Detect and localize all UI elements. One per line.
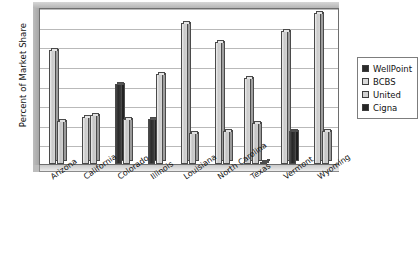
bar-top: [324, 129, 331, 132]
bar-wellpoint-illinois[interactable]: [148, 119, 155, 164]
bar-group: [172, 9, 205, 164]
bar-bcbs-louisiana[interactable]: [181, 23, 188, 164]
bar-side: [163, 73, 166, 161]
bar-bcbs-wyoming[interactable]: [314, 13, 321, 164]
bar-top: [117, 82, 124, 85]
bar-face: [156, 74, 163, 164]
plot-frame: [39, 8, 339, 165]
bar-face: [82, 117, 89, 164]
bar-group: [239, 9, 272, 164]
bar-face: [123, 119, 130, 164]
bar-side: [230, 130, 233, 161]
bar-top: [125, 117, 132, 120]
bar-bcbs-illinois[interactable]: [156, 74, 163, 164]
bar-chart-figure: Percent of Market Share 0102030405060708…: [0, 0, 419, 253]
bar-top: [254, 121, 261, 124]
legend-label: United: [373, 90, 401, 100]
bar-side: [97, 114, 100, 161]
bar-face: [115, 84, 122, 164]
legend-label: BCBS: [373, 77, 396, 87]
bar-group: [206, 9, 239, 164]
bar-group: [106, 9, 139, 164]
bar-group: [40, 9, 73, 164]
bar-face: [189, 133, 196, 164]
bar-united-wyoming[interactable]: [322, 131, 329, 164]
bar-top: [217, 40, 224, 43]
bar-side: [196, 132, 199, 161]
x-axis-labels: ArizonaCaliforniaColoradoIllinoisLouisia…: [39, 172, 339, 232]
bar-group: [305, 9, 338, 164]
bar-face: [281, 31, 288, 164]
bar-united-louisiana[interactable]: [189, 133, 196, 164]
bar-top: [183, 21, 190, 24]
bar-bcbs-california[interactable]: [82, 117, 89, 164]
bar-top: [191, 131, 198, 134]
bar-united-colorado[interactable]: [123, 119, 130, 164]
bar-top: [283, 29, 290, 32]
bar-groups: [40, 9, 338, 164]
bar-face: [148, 119, 155, 164]
legend-swatch-icon: [362, 65, 369, 72]
bar-bcbs-north-carolina[interactable]: [215, 42, 222, 164]
bar-face: [215, 42, 222, 164]
bar-face: [289, 131, 296, 164]
bar-face: [181, 23, 188, 164]
bar-side: [130, 118, 133, 161]
bar-face: [322, 131, 329, 164]
bar-united-north-carolina[interactable]: [223, 131, 230, 164]
bar-top: [59, 119, 66, 122]
legend-swatch-icon: [362, 91, 369, 98]
bar-group: [73, 9, 106, 164]
bar-group: [272, 9, 305, 164]
bar-side: [329, 130, 332, 161]
bar-face: [90, 115, 97, 164]
bar-face: [49, 50, 56, 164]
legend-label: Cigna: [373, 103, 397, 113]
bar-united-arizona[interactable]: [57, 121, 64, 164]
plot-area: 01020304050607080: [39, 8, 339, 165]
bar-cigna-vermont[interactable]: [289, 131, 296, 164]
legend-label: WellPoint: [373, 64, 412, 74]
bar-top: [158, 72, 165, 75]
legend-item-wellpoint[interactable]: WellPoint: [362, 62, 412, 75]
legend-item-united[interactable]: United: [362, 88, 412, 101]
legend-item-cigna[interactable]: Cigna: [362, 101, 412, 114]
legend-swatch-icon: [362, 78, 369, 85]
bar-bcbs-vermont[interactable]: [281, 31, 288, 164]
chart-legend: WellPointBCBSUnitedCigna: [357, 57, 418, 119]
legend-item-bcbs[interactable]: BCBS: [362, 75, 412, 88]
bar-side: [64, 120, 67, 161]
bar-top: [291, 129, 298, 132]
bar-face: [223, 131, 230, 164]
bar-united-california[interactable]: [90, 115, 97, 164]
legend-swatch-icon: [362, 104, 369, 111]
bar-top: [92, 113, 99, 116]
y-axis-title: Percent of Market Share: [18, 5, 28, 145]
bar-bcbs-arizona[interactable]: [49, 50, 56, 164]
bar-group: [139, 9, 172, 164]
bar-side: [296, 130, 299, 161]
bar-top: [316, 11, 323, 14]
bar-top: [246, 76, 253, 79]
bar-face: [57, 121, 64, 164]
bar-top: [51, 48, 58, 51]
bar-top: [225, 129, 232, 132]
bar-face: [314, 13, 321, 164]
bar-wellpoint-colorado[interactable]: [115, 84, 122, 164]
